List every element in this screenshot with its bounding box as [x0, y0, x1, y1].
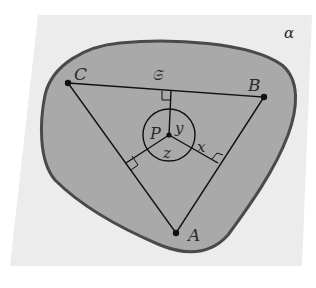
label-z: z: [162, 144, 171, 162]
point-a: [173, 230, 179, 236]
label-x: x: [197, 138, 206, 156]
diagram-canvas: α 𝔖 C B A P y z x: [0, 0, 316, 288]
label-p: P: [149, 124, 161, 143]
point-c: [65, 80, 71, 86]
point-b: [261, 94, 267, 100]
label-c: C: [74, 64, 87, 84]
label-alpha: α: [284, 24, 294, 42]
point-p: [166, 132, 171, 137]
label-a: A: [186, 225, 200, 245]
label-b: B: [247, 75, 261, 95]
label-y: y: [174, 119, 184, 137]
